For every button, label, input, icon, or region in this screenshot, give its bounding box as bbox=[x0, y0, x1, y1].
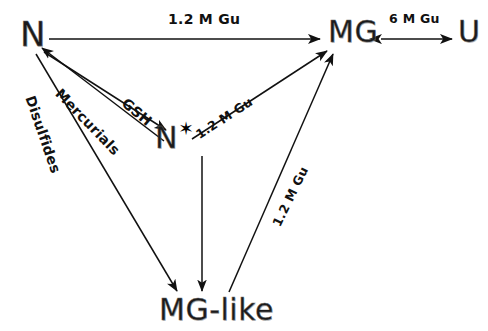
node-MG: MG bbox=[328, 14, 378, 49]
node-MG-like: MG-like bbox=[159, 292, 274, 327]
arrow-layer bbox=[0, 0, 488, 331]
node-N: N bbox=[20, 14, 46, 54]
edge-mglike-to-mg bbox=[229, 54, 333, 292]
node-U: U bbox=[458, 14, 480, 49]
node-MG-like-label: MG-like bbox=[159, 292, 274, 327]
node-U-label: U bbox=[458, 14, 480, 49]
edge-label-mg-to-u: 6 M Gu bbox=[389, 11, 440, 26]
edge-label-n-to-mg: 1.2 M Gu bbox=[168, 11, 240, 27]
node-N-star-label: N bbox=[155, 120, 178, 155]
node-MG-label: MG bbox=[328, 14, 378, 49]
node-N-label: N bbox=[20, 14, 46, 54]
node-N-star: N✶ bbox=[155, 120, 194, 155]
star-icon: ✶ bbox=[178, 120, 194, 139]
diagram-canvas: N N✶ MG U MG-like 1.2 M Gu 6 M Gu GSH Me… bbox=[0, 0, 488, 331]
